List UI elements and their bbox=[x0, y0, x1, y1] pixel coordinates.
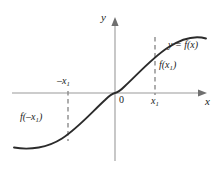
value-label-f-neg-x1: f(–x1) bbox=[20, 112, 42, 122]
value-label-f-neg-x1-suffix: ) bbox=[39, 111, 42, 122]
origin-label: 0 bbox=[119, 95, 124, 105]
value-label-f-x1-suffix: ) bbox=[173, 59, 176, 70]
y-axis-arrowhead bbox=[111, 17, 118, 26]
y-axis bbox=[111, 17, 118, 161]
odd-function-figure: y x 0 x1 –x1 y = f(x) f(x1) f(–x1) bbox=[0, 0, 221, 170]
graph-canvas bbox=[0, 0, 221, 170]
curve-equation-label: y = f(x) bbox=[168, 40, 198, 50]
x-axis-label: x bbox=[205, 96, 210, 107]
value-label-f-x1: f(x1) bbox=[159, 60, 176, 70]
tick-label-x1-subscript: 1 bbox=[155, 100, 158, 107]
tick-label-neg-x1-subscript: 1 bbox=[66, 80, 69, 87]
tick-label-neg-x1: –x1 bbox=[57, 76, 70, 86]
tick-label-x1: x1 bbox=[151, 96, 159, 106]
y-axis-label: y bbox=[101, 12, 106, 23]
value-label-f-neg-x1-subscript: 1 bbox=[36, 116, 39, 123]
value-label-f-neg-x1-prefix: f(–x bbox=[20, 111, 36, 122]
value-label-f-x1-prefix: f(x bbox=[159, 59, 170, 70]
value-label-f-x1-subscript: 1 bbox=[170, 64, 173, 71]
